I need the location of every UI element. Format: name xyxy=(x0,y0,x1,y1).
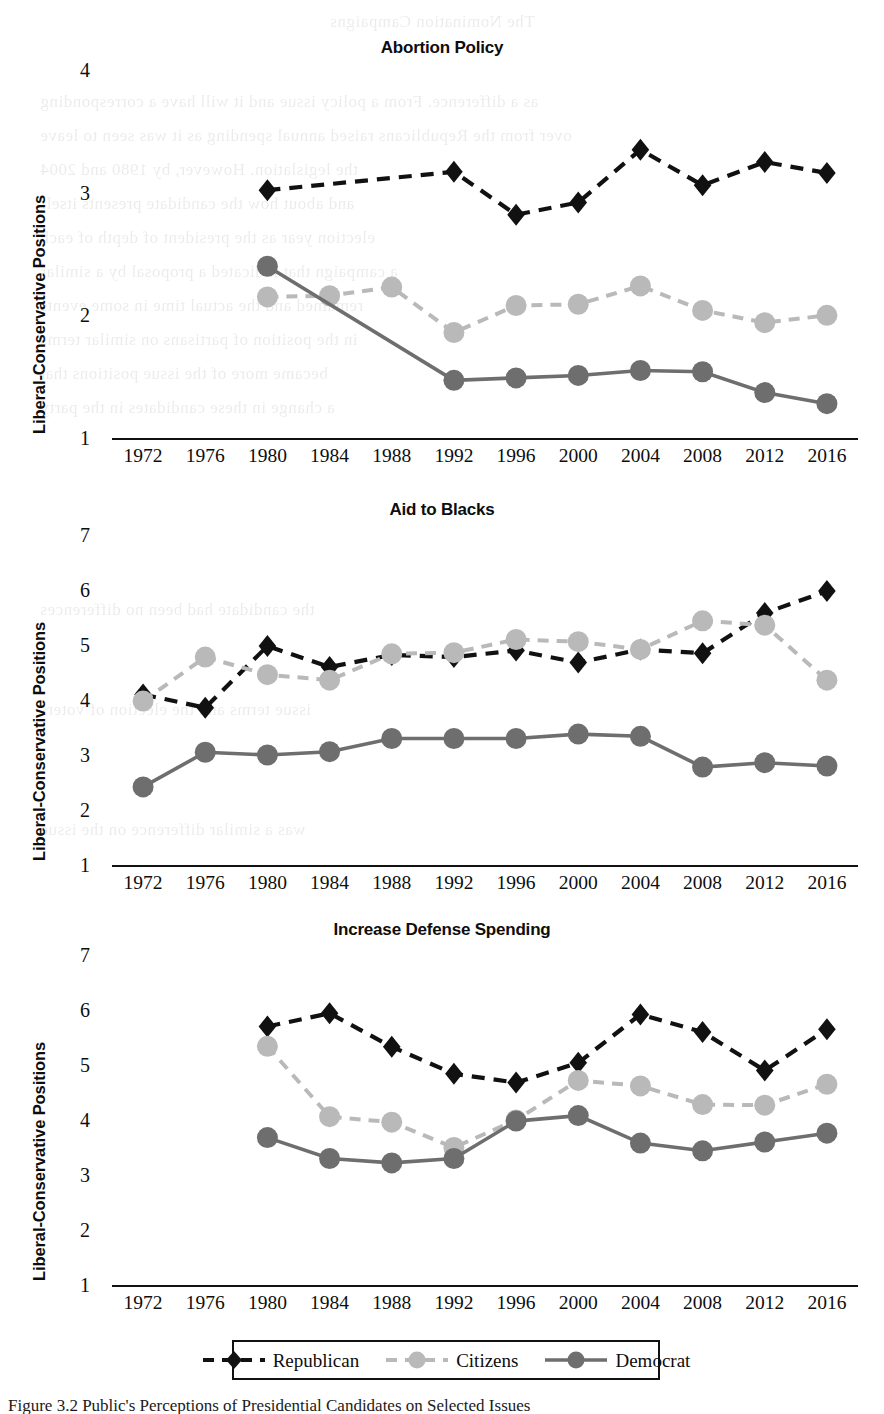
data-point-democrat xyxy=(692,1140,713,1161)
data-point-republican xyxy=(383,1036,401,1058)
data-point-republican xyxy=(818,1018,836,1040)
figure-page: The Nomination Campaignsas a difference.… xyxy=(0,0,884,1414)
data-point-republican xyxy=(632,1003,650,1025)
legend-item-citizens: Citizens xyxy=(385,1350,518,1370)
data-point-democrat xyxy=(443,1148,464,1169)
data-point-democrat xyxy=(568,1105,589,1126)
legend-label: Democrat xyxy=(615,1351,690,1370)
circle-marker xyxy=(385,1350,449,1370)
chart-legend: RepublicanCitizensDemocrat xyxy=(232,1340,660,1380)
data-point-republican xyxy=(756,1060,774,1082)
data-point-democrat xyxy=(506,1111,527,1132)
data-point-republican xyxy=(694,1021,712,1043)
data-point-democrat xyxy=(381,1152,402,1173)
data-point-citizens xyxy=(630,1075,651,1096)
legend-label: Citizens xyxy=(456,1351,518,1370)
data-point-citizens xyxy=(816,1074,837,1095)
data-point-democrat xyxy=(630,1133,651,1154)
circle-marker xyxy=(544,1350,608,1370)
data-point-citizens xyxy=(381,1112,402,1133)
data-point-citizens xyxy=(692,1094,713,1115)
data-point-republican xyxy=(445,1063,463,1085)
data-point-democrat xyxy=(257,1127,278,1148)
data-point-citizens xyxy=(754,1095,775,1116)
data-point-citizens xyxy=(319,1106,340,1127)
chart-plot-area xyxy=(0,0,884,1414)
series-line-citizens xyxy=(267,1046,827,1147)
data-point-republican xyxy=(507,1072,525,1094)
data-point-citizens xyxy=(568,1070,589,1091)
series-line-republican xyxy=(267,1013,827,1082)
series-line-democrat xyxy=(267,1116,827,1163)
diamond-marker xyxy=(202,1350,266,1370)
data-point-democrat xyxy=(754,1132,775,1153)
data-point-republican xyxy=(259,1016,277,1038)
legend-item-democrat: Democrat xyxy=(544,1350,690,1370)
legend-item-republican: Republican xyxy=(202,1350,360,1370)
data-point-citizens xyxy=(257,1036,278,1057)
figure-caption: Figure 3.2 Public's Perceptions of Presi… xyxy=(8,1396,878,1414)
legend-label: Republican xyxy=(273,1351,360,1370)
data-point-republican xyxy=(321,1002,339,1024)
data-point-democrat xyxy=(816,1123,837,1144)
data-point-democrat xyxy=(319,1148,340,1169)
